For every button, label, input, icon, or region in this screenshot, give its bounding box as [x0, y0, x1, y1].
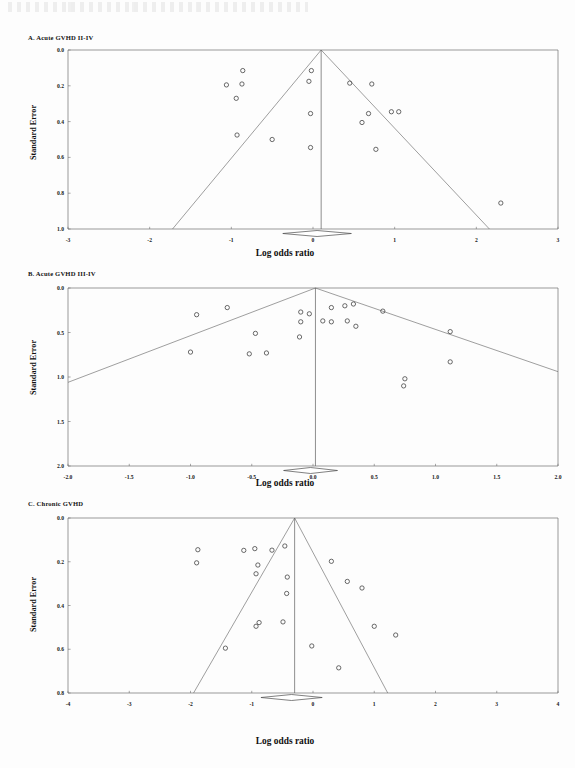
study-data-point: [374, 147, 378, 151]
y-tick-label: 0.0: [57, 285, 64, 291]
y-tick-label: 0.5: [57, 330, 64, 336]
study-data-point: [402, 384, 406, 388]
study-data-point: [360, 120, 364, 124]
panel-a-plot: -3-2-101230.00.20.40.60.81.0: [0, 0, 575, 260]
study-data-point: [196, 548, 200, 552]
funnel-left-limit: [68, 288, 315, 382]
y-tick-label: 0.6: [57, 646, 64, 652]
y-tick-label: 1.5: [57, 419, 64, 425]
study-data-point: [270, 548, 274, 552]
study-data-point: [310, 644, 314, 648]
x-tick-label: 2: [434, 701, 437, 707]
x-tick-label: -1: [249, 701, 254, 707]
study-data-point: [223, 646, 227, 650]
x-tick-label: 2.0: [555, 474, 562, 480]
x-tick-label: -0.5: [247, 474, 256, 480]
study-data-point: [403, 377, 407, 381]
study-data-point: [366, 111, 370, 115]
study-data-point: [321, 319, 325, 323]
study-data-point: [343, 304, 347, 308]
study-data-point: [329, 559, 333, 563]
study-data-point: [389, 110, 393, 114]
study-data-point: [241, 68, 245, 72]
x-tick-label: 3: [495, 701, 498, 707]
y-tick-label: 0.8: [57, 190, 64, 196]
study-data-point: [285, 575, 289, 579]
panel-c-plot: -4-3-2-1012340.00.20.40.60.8: [0, 495, 575, 768]
study-data-point: [281, 620, 285, 624]
study-data-point: [297, 335, 301, 339]
y-tick-label: 1.0: [57, 226, 64, 232]
x-tick-label: -1.5: [125, 474, 134, 480]
plot-frame: [68, 50, 558, 229]
study-data-point: [348, 81, 352, 85]
study-data-point: [372, 624, 376, 628]
summary-effect-diamond: [261, 695, 322, 701]
study-data-point: [448, 329, 452, 333]
x-tick-label: 0: [312, 701, 315, 707]
funnel-right-limit: [295, 518, 388, 693]
funnel-right-limit: [315, 288, 558, 372]
x-tick-label: -4: [66, 701, 71, 707]
study-data-point: [360, 586, 364, 590]
y-tick-label: 0.8: [57, 690, 64, 696]
x-tick-label: 0.5: [371, 474, 378, 480]
study-data-point: [254, 624, 258, 628]
study-data-point: [307, 312, 311, 316]
y-tick-label: 0.0: [57, 47, 64, 53]
y-tick-label: 0.0: [57, 515, 64, 521]
panel-b-plot: -2.0-1.5-1.0-0.50.00.51.01.52.00.00.51.0…: [0, 260, 575, 495]
plot-frame: [68, 518, 558, 693]
study-data-point: [397, 110, 401, 114]
study-data-point: [351, 302, 355, 306]
x-tick-label: 3: [557, 237, 560, 243]
x-tick-label: 0.0: [310, 474, 317, 480]
summary-effect-diamond: [283, 231, 352, 237]
x-tick-label: -3: [66, 237, 71, 243]
funnel-right-limit: [321, 50, 489, 229]
study-data-point: [337, 666, 341, 670]
x-tick-label: 1.0: [432, 474, 439, 480]
study-data-point: [242, 548, 246, 552]
x-tick-label: 1: [393, 237, 396, 243]
y-tick-label: 1.0: [57, 374, 64, 380]
x-tick-label: 4: [557, 701, 560, 707]
study-data-point: [299, 310, 303, 314]
study-data-point: [370, 82, 374, 86]
x-tick-label: -2: [147, 237, 152, 243]
funnel-left-limit: [173, 50, 322, 229]
study-data-point: [194, 313, 198, 317]
y-tick-label: 0.4: [57, 119, 64, 125]
y-tick-label: 0.4: [57, 603, 64, 609]
study-data-point: [194, 561, 198, 565]
study-data-point: [394, 633, 398, 637]
study-data-point: [345, 319, 349, 323]
study-data-point: [354, 324, 358, 328]
y-tick-label: 0.2: [57, 83, 64, 89]
study-data-point: [307, 79, 311, 83]
study-data-point: [345, 579, 349, 583]
study-data-point: [308, 145, 312, 149]
study-data-point: [257, 620, 261, 624]
x-tick-label: 0: [312, 237, 315, 243]
x-tick-label: 1.5: [493, 474, 500, 480]
study-data-point: [253, 331, 257, 335]
study-data-point: [234, 96, 238, 100]
study-data-point: [225, 305, 229, 309]
x-tick-label: -2: [188, 701, 193, 707]
study-data-point: [283, 544, 287, 548]
study-data-point: [308, 111, 312, 115]
study-data-point: [299, 320, 303, 324]
x-tick-label: 1: [373, 701, 376, 707]
x-tick-label: -1.0: [186, 474, 195, 480]
funnel-left-limit: [194, 518, 295, 693]
study-data-point: [247, 352, 251, 356]
study-data-point: [270, 137, 274, 141]
y-tick-label: 0.2: [57, 559, 64, 565]
study-data-point: [264, 351, 268, 355]
study-data-point: [224, 83, 228, 87]
study-data-point: [499, 201, 503, 205]
study-data-point: [309, 68, 313, 72]
study-data-point: [253, 546, 257, 550]
study-data-point: [256, 563, 260, 567]
